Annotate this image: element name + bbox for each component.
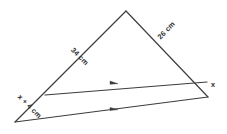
- geometry-canvas: 34 cm 26 cm x + 4 cm x: [0, 0, 227, 134]
- parallel-segment-upper: [45, 82, 207, 95]
- label-right-side: 26 cm: [156, 19, 177, 41]
- label-lower-right-side: x: [211, 80, 215, 89]
- label-left-side: 34 cm: [69, 45, 90, 66]
- geometry-figure: 34 cm 26 cm x + 4 cm x: [0, 0, 227, 134]
- label-lower-left-side: x + 4 cm: [16, 92, 44, 120]
- arrow-right-icon-upper: [110, 81, 118, 84]
